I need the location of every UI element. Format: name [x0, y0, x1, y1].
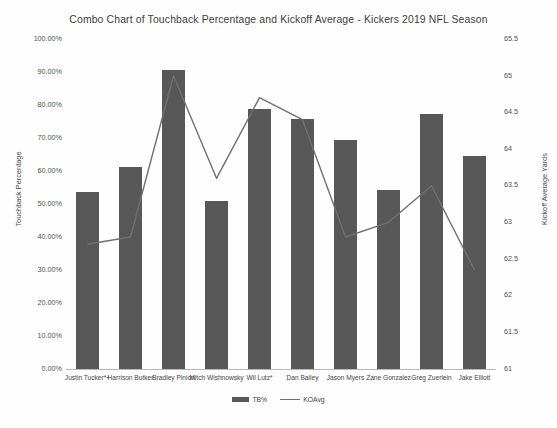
chart-legend: TB% KOAvg [0, 396, 557, 403]
legend-bar-swatch-icon [232, 397, 249, 402]
y-tick-left-80: 80.00% [16, 101, 62, 109]
legend-item-koavg: KOAvg [280, 396, 324, 403]
y-tick-right-61-5: 61.5 [504, 328, 544, 336]
y-tick-left-50: 50.00% [16, 200, 62, 208]
y-tick-right-65: 65 [504, 72, 544, 80]
chart-title: Combo Chart of Touchback Percentage and … [0, 14, 557, 25]
line-series [66, 39, 496, 369]
koavg-polyline [88, 76, 475, 270]
x-label-9: Jake Elliott [445, 374, 505, 383]
y-tick-right-63-5: 63.5 [504, 181, 544, 189]
y-tick-left-40: 40.00% [16, 233, 62, 241]
y-tick-right-65-5: 65.5 [504, 35, 544, 43]
y-tick-left-0: 0.00% [16, 365, 62, 373]
y-tick-left-70: 70.00% [16, 134, 62, 142]
combo-chart: Combo Chart of Touchback Percentage and … [0, 0, 557, 428]
y-tick-left-100: 100.00% [16, 35, 62, 43]
legend-label-koavg: KOAvg [303, 396, 324, 403]
plot-area: Touchback Percentage Kickoff Average Yar… [66, 39, 496, 369]
legend-line-swatch-icon [280, 399, 300, 401]
y-tick-left-30: 30.00% [16, 266, 62, 274]
y-tick-right-63: 63 [504, 218, 544, 226]
y-tick-right-64-5: 64.5 [504, 108, 544, 116]
legend-label-tb: TB% [252, 396, 267, 403]
y-tick-right-62: 62 [504, 291, 544, 299]
y-tick-right-61: 61 [504, 365, 544, 373]
y-tick-right-62-5: 62.5 [504, 255, 544, 263]
y-tick-left-20: 20.00% [16, 299, 62, 307]
x-axis-baseline [66, 369, 496, 370]
legend-item-tb: TB% [232, 396, 267, 403]
y-tick-left-90: 90.00% [16, 68, 62, 76]
y-tick-left-60: 60.00% [16, 167, 62, 175]
y-tick-right-64: 64 [504, 145, 544, 153]
y-axis-left-title: Touchback Percentage [14, 129, 23, 249]
y-tick-left-10: 10.00% [16, 332, 62, 340]
